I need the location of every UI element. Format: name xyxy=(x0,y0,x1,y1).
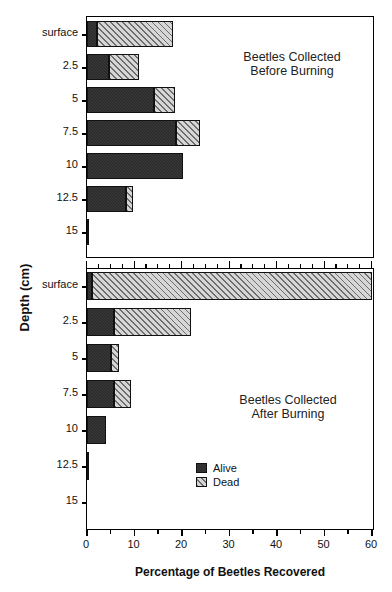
inter-panel-tick-mark xyxy=(169,264,170,268)
bar-segment-dead xyxy=(111,344,119,372)
x-tick-label: 30 xyxy=(209,538,249,550)
bar-segment-alive xyxy=(87,153,183,179)
bar-segment-alive xyxy=(87,21,97,47)
bar-segment-dead xyxy=(114,308,191,336)
legend-item-alive: Alive xyxy=(196,462,239,474)
y-tick-label: 12.5 xyxy=(20,458,78,470)
bar-row xyxy=(87,380,131,408)
inter-panel-tick-mark xyxy=(324,261,325,268)
legend-swatch-dead-icon xyxy=(196,477,207,487)
y-tick-mark xyxy=(82,502,87,504)
bar-segment-alive xyxy=(87,308,114,336)
legend-swatch-alive-icon xyxy=(196,463,207,473)
y-tick-mark xyxy=(82,67,87,69)
y-tick-mark xyxy=(82,286,87,288)
beetle-depth-chart-figure: Depth (cm) Percentage of Beetles Recover… xyxy=(0,0,392,592)
inter-panel-tick-mark xyxy=(157,264,158,268)
bar-row xyxy=(87,219,89,245)
y-tick-label: surface xyxy=(20,278,78,290)
x-tick-mark xyxy=(371,530,373,536)
inter-panel-tick-mark xyxy=(181,261,182,268)
bar-row xyxy=(87,344,119,372)
bar-row xyxy=(87,452,89,480)
panel-title-before-line1: Beetles Collected xyxy=(222,50,362,64)
inter-panel-tick-mark xyxy=(205,264,206,268)
y-tick-label: 5 xyxy=(20,350,78,362)
bar-segment-alive xyxy=(87,186,126,212)
inter-panel-tick-mark xyxy=(217,264,218,268)
inter-panel-tick-mark xyxy=(371,261,372,268)
bar-segment-alive xyxy=(87,219,89,245)
legend-item-dead: Dead xyxy=(196,476,239,488)
inter-panel-tick-mark xyxy=(264,264,265,268)
inter-panel-tick-mark xyxy=(276,261,277,268)
legend-label-alive: Alive xyxy=(213,462,237,474)
panel-title-after-line1: Beetles Collected xyxy=(218,393,358,407)
bar-segment-alive xyxy=(87,54,109,80)
inter-panel-tick-mark xyxy=(359,264,360,268)
panel-title-after: Beetles Collected After Burning xyxy=(218,393,358,421)
inter-panel-tick-mark xyxy=(252,264,253,268)
bar-row xyxy=(87,54,139,80)
inter-panel-tick-mark xyxy=(300,264,301,268)
bar-row xyxy=(87,308,191,336)
x-minor-tick-mark xyxy=(110,530,112,534)
x-tick-mark xyxy=(134,530,136,536)
x-tick-label: 60 xyxy=(351,538,391,550)
x-tick-label: 10 xyxy=(114,538,154,550)
y-tick-label: 7.5 xyxy=(20,125,78,137)
y-tick-label: 10 xyxy=(20,422,78,434)
bar-segment-dead xyxy=(114,380,131,408)
inter-panel-tick-mark xyxy=(312,264,313,268)
bar-row xyxy=(87,272,372,300)
y-tick-label: 2.5 xyxy=(20,59,78,71)
bar-segment-dead xyxy=(176,120,200,146)
bar-segment-dead xyxy=(154,87,175,113)
bar-segment-alive xyxy=(87,344,111,372)
y-tick-label: 5 xyxy=(20,92,78,104)
inter-panel-tick-mark xyxy=(240,264,241,268)
inter-panel-tick-mark xyxy=(86,261,87,268)
y-tick-label: 10 xyxy=(20,158,78,170)
x-axis-title: Percentage of Beetles Recovered xyxy=(86,565,374,579)
x-tick-mark xyxy=(86,530,88,536)
y-tick-mark xyxy=(82,133,87,135)
y-tick-label: 15 xyxy=(20,224,78,236)
x-tick-mark xyxy=(324,530,326,536)
legend-label-dead: Dead xyxy=(213,476,239,488)
inter-panel-tick-mark xyxy=(122,264,123,268)
y-tick-mark xyxy=(82,466,87,468)
bar-segment-alive xyxy=(87,87,154,113)
panel-title-after-line2: After Burning xyxy=(218,407,358,421)
bar-segment-dead xyxy=(97,21,173,47)
inter-panel-tick-mark xyxy=(193,264,194,268)
y-tick-label: 7.5 xyxy=(20,386,78,398)
bar-row xyxy=(87,186,133,212)
x-tick-label: 0 xyxy=(66,538,106,550)
y-tick-mark xyxy=(82,100,87,102)
x-minor-tick-mark xyxy=(205,530,207,534)
y-tick-mark xyxy=(82,394,87,396)
bar-segment-alive xyxy=(87,380,114,408)
y-tick-label: 15 xyxy=(20,494,78,506)
x-minor-tick-mark xyxy=(157,530,159,534)
x-minor-tick-mark xyxy=(347,530,349,534)
y-tick-mark xyxy=(82,322,87,324)
inter-panel-tick-mark xyxy=(335,264,336,268)
y-tick-mark xyxy=(82,166,87,168)
inter-panel-tick-mark xyxy=(145,264,146,268)
x-minor-tick-mark xyxy=(300,530,302,534)
bar-segment-dead xyxy=(126,186,133,212)
bar-segment-alive xyxy=(87,452,89,480)
inter-panel-tick-mark xyxy=(110,264,111,268)
inter-panel-tick-mark xyxy=(134,261,135,268)
bar-row xyxy=(87,21,173,47)
bar-segment-dead xyxy=(92,272,372,300)
x-tick-label: 50 xyxy=(304,538,344,550)
inter-panel-tick-mark xyxy=(229,261,230,268)
inter-panel-tick-mark xyxy=(347,264,348,268)
inter-panel-tick-mark xyxy=(98,264,99,268)
x-tick-label: 40 xyxy=(256,538,296,550)
y-tick-label: surface xyxy=(20,26,78,38)
x-tick-mark xyxy=(229,530,231,536)
